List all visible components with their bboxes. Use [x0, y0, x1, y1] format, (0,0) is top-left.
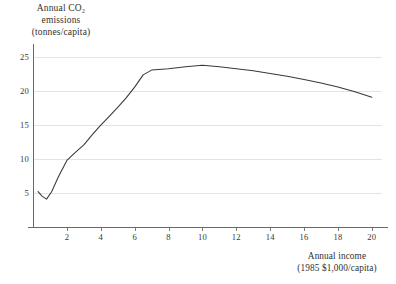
x-axis-tick: [338, 228, 339, 231]
x-axis-tick-label: 8: [159, 232, 179, 242]
x-axis-tick: [304, 228, 305, 231]
y-axis-title-line-3: (tonnes/capita): [2, 26, 120, 38]
x-axis-tick-label: 4: [91, 232, 111, 242]
x-axis-tick: [236, 228, 237, 231]
y-axis-tick-label: 20: [5, 86, 29, 96]
x-axis-line: [28, 227, 388, 228]
x-axis-tick: [372, 228, 373, 231]
x-axis-tick-label: 6: [125, 232, 145, 242]
x-axis-tick: [67, 228, 68, 231]
x-axis-tick-label: 14: [260, 232, 280, 242]
grid-line: [33, 159, 382, 160]
x-axis-tick-label: 20: [362, 232, 382, 242]
x-axis-tick-label: 18: [328, 232, 348, 242]
x-axis-tick: [135, 228, 136, 231]
y-axis-tick-label: 10: [5, 154, 29, 164]
y-axis-tick-label: 25: [5, 52, 29, 62]
x-axis-tick-label: 12: [226, 232, 246, 242]
x-axis-tick: [270, 228, 271, 231]
grid-line: [33, 125, 382, 126]
x-axis-tick-label: 2: [57, 232, 77, 242]
y-axis-tick-label: 5: [5, 188, 29, 198]
y-axis-tick-label: 15: [5, 120, 29, 130]
y-axis-title: Annual CO₂ emissions (tonnes/capita): [2, 2, 120, 39]
grid-line: [33, 57, 382, 58]
x-axis-tick: [202, 228, 203, 231]
x-axis-title-line-1: Annual income: [278, 250, 396, 262]
x-axis-tick: [169, 228, 170, 231]
x-axis-tick-label: 10: [192, 232, 212, 242]
chart-figure: Annual CO₂ emissions (tonnes/capita) 510…: [0, 0, 396, 284]
grid-line: [33, 91, 382, 92]
y-axis-title-line-2: emissions: [2, 14, 120, 26]
x-axis-tick: [101, 228, 102, 231]
grid-line: [33, 193, 382, 194]
y-axis-line: [33, 44, 34, 228]
y-axis-title-line-1: Annual CO₂: [2, 2, 120, 14]
x-axis-title: Annual income (1985 $1,000/capita): [278, 250, 396, 274]
x-axis-tick-label: 16: [294, 232, 314, 242]
x-axis-title-line-2: (1985 $1,000/capita): [278, 262, 396, 274]
